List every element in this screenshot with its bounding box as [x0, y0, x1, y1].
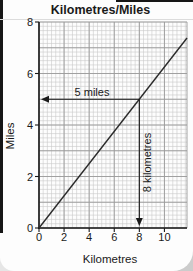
x-tick-label: 4 — [86, 231, 92, 243]
annotation-5-miles: 5 miles — [57, 86, 127, 99]
arrowhead-left-icon — [41, 96, 49, 103]
y-tick-label: 0 — [27, 222, 33, 234]
conversion-graph: 024681002468 — [0, 0, 193, 271]
x-axis-label: Kilometres — [60, 252, 160, 266]
annotation-8-kilometres: 8 kilometres — [141, 128, 154, 198]
y-tick-label: 8 — [27, 16, 33, 28]
arrowhead-down-icon — [136, 218, 143, 226]
y-tick-label: 2 — [27, 171, 33, 183]
scan-corner-artifact-bottom-right — [163, 245, 193, 271]
x-tick-label: 8 — [136, 231, 142, 243]
y-axis-label: Miles — [4, 120, 16, 152]
x-tick-label: 0 — [36, 231, 42, 243]
y-tick-label: 6 — [27, 68, 33, 80]
x-tick-label: 6 — [111, 231, 117, 243]
y-tick-label: 4 — [27, 119, 33, 131]
scan-corner-artifact-bottom-left — [0, 253, 22, 271]
x-tick-label: 10 — [158, 231, 170, 243]
x-tick-label: 2 — [61, 231, 67, 243]
